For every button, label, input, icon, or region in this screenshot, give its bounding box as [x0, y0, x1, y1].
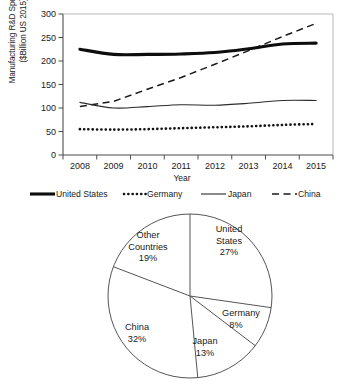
pie-label-other-line1: Other — [137, 230, 160, 240]
chart-legend: United States Germany Japan China — [0, 186, 342, 202]
figure-root: Manufacturing R&D Spending ($Billion US … — [0, 0, 342, 384]
legend-label-japan: Japan — [228, 189, 252, 199]
x-tick-2010: 2010 — [137, 161, 157, 171]
x-tick-2009: 2009 — [104, 161, 124, 171]
y-tick-100: 100 — [41, 103, 56, 113]
pie-label-japan-line1: Japan — [192, 336, 217, 346]
series-line-germany — [80, 124, 316, 130]
x-axis-label: Year — [173, 173, 190, 183]
x-tick-2011: 2011 — [171, 161, 190, 171]
x-tick-2014: 2014 — [272, 161, 292, 171]
y-axis-ticks — [59, 14, 64, 155]
y-tick-300: 300 — [41, 9, 56, 19]
pie-label-other-line2: Countries — [128, 242, 168, 252]
x-tick-2012: 2012 — [205, 161, 225, 171]
x-tick-2008: 2008 — [70, 161, 90, 171]
legend-label-united-states: United States — [56, 189, 108, 199]
x-axis-tick-labels: 2008 2009 2010 2011 2012 2013 2014 2015 — [70, 161, 326, 171]
pie-label-germany-pct: 8% — [229, 320, 242, 330]
legend-label-china: China — [298, 189, 321, 199]
pie-label-germany-line1: Germany — [222, 308, 260, 318]
y-axis-tick-labels: 300 250 200 150 100 50 0 — [41, 9, 56, 160]
series-line-china — [80, 23, 316, 106]
axis-lines — [63, 14, 333, 155]
pie-label-us-line2: States — [216, 236, 242, 246]
pie-label-japan-pct: 13% — [196, 348, 214, 358]
pie-label-china-pct: 32% — [128, 334, 146, 344]
series-line-united-states — [80, 43, 316, 55]
pie-label-other-pct: 19% — [139, 253, 157, 263]
pie-label-us-line1: United — [216, 224, 243, 234]
pie-label-china: China 32% — [125, 322, 150, 344]
y-tick-250: 250 — [41, 33, 56, 43]
y-tick-150: 150 — [41, 80, 56, 90]
pie-label-us-pct: 27% — [220, 247, 238, 257]
x-axis-label-wrap: Year — [0, 173, 342, 183]
x-axis-ticks — [63, 155, 333, 160]
x-tick-2013: 2013 — [239, 161, 259, 171]
pie-label-japan: Japan 13% — [192, 336, 217, 358]
pie-label-china-line1: China — [125, 322, 150, 332]
x-tick-2015: 2015 — [306, 161, 326, 171]
line-chart: Manufacturing R&D Spending ($Billion US … — [0, 0, 342, 205]
y-tick-0: 0 — [51, 150, 56, 160]
y-tick-50: 50 — [46, 127, 56, 137]
line-plot-area: 300 250 200 150 100 50 0 — [0, 0, 342, 172]
pie-chart: United States 27% Germany 8% Japan 13% C… — [0, 205, 342, 384]
legend-label-germany: Germany — [147, 189, 183, 199]
y-tick-200: 200 — [41, 56, 56, 66]
